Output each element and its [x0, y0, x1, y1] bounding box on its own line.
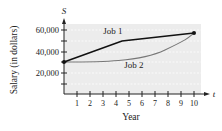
x-tick-label-4: 4: [114, 99, 118, 108]
y-tick-label-20000: 20,000: [36, 68, 59, 78]
x-tick-label-3: 3: [101, 99, 105, 108]
salary-chart: S t 60,000 40,000 20,000 1 2 3 4 5 6 7 8…: [0, 0, 222, 131]
y-axis-title: Salary (in dollars): [9, 26, 20, 95]
x-tick-label-10: 10: [190, 99, 198, 108]
end-point: [192, 31, 196, 35]
job2-label: Job 2: [124, 60, 143, 70]
x-axis-title: Year: [122, 112, 140, 122]
x-axis-var-label: t: [213, 89, 216, 99]
x-tick-label-6: 6: [140, 99, 144, 108]
x-tick-label-7: 7: [153, 99, 157, 108]
y-tick-label-40000: 40,000: [36, 47, 59, 57]
x-tick-label-2: 2: [88, 99, 92, 108]
y-axis-var-label: S: [62, 6, 67, 16]
x-axis-arrow-icon: [204, 92, 210, 96]
y-axis-arrow-icon: [62, 18, 66, 24]
x-tick-label-1: 1: [75, 99, 79, 108]
x-tick-label-9: 9: [179, 99, 183, 108]
start-point: [62, 60, 66, 64]
x-tick-labels: 1 2 3 4 5 6 7 8 9 10: [75, 99, 198, 108]
job1-label: Job 1: [103, 26, 122, 36]
x-tick-label-5: 5: [127, 99, 131, 108]
y-tick-label-60000: 60,000: [36, 25, 59, 35]
x-tick-label-8: 8: [166, 99, 170, 108]
